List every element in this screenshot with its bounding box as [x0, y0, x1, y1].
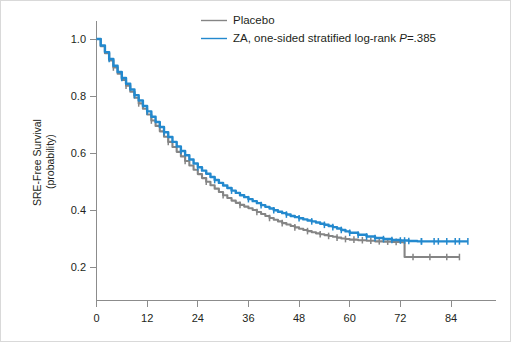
legend: Placebo ZA, one-sided stratified log-ran… — [201, 14, 436, 44]
y-tick-label: 0.2 — [71, 261, 86, 273]
censor-marks — [109, 56, 468, 245]
x-tick-label: 84 — [445, 312, 457, 324]
y-axis-tick-labels: 0.20.40.60.81.0 — [71, 33, 86, 273]
series-placebo — [97, 39, 460, 260]
legend-label-za-post: =.385 — [407, 32, 436, 44]
legend-label-placebo: Placebo — [233, 14, 275, 26]
y-axis-title-line1: SRE-Free Survival — [31, 119, 43, 206]
y-tick-label: 0.4 — [71, 204, 86, 216]
y-tick-label: 0.8 — [71, 90, 86, 102]
y-axis-title: SRE-Free Survival (probability) — [31, 119, 56, 206]
x-axis-ticks — [97, 301, 452, 308]
survival-curve — [97, 39, 468, 241]
series-layer — [97, 39, 468, 260]
legend-label-za-pre: ZA, one-sided stratified log-rank — [233, 32, 399, 44]
x-tick-label: 24 — [192, 312, 204, 324]
y-tick-label: 0.6 — [71, 147, 86, 159]
y-tick-label: 1.0 — [71, 33, 86, 45]
survival-chart: 0.20.40.60.81.0 012243648607284 SRE-Free… — [1, 1, 511, 342]
y-axis-title-line2: (probability) — [44, 134, 56, 189]
censor-marks — [113, 64, 459, 260]
x-axis-tick-labels: 012243648607284 — [93, 312, 457, 324]
survival-curve — [97, 39, 460, 257]
x-tick-label: 36 — [242, 312, 254, 324]
x-tick-label: 72 — [394, 312, 406, 324]
series-za — [97, 39, 468, 245]
y-axis-ticks — [90, 39, 97, 267]
legend-label-za: ZA, one-sided stratified log-rank P=.385 — [233, 32, 436, 44]
axes-group — [97, 21, 497, 301]
x-tick-label: 48 — [293, 312, 305, 324]
x-tick-label: 60 — [344, 312, 356, 324]
x-tick-label: 12 — [141, 312, 153, 324]
figure-container: 0.20.40.60.81.0 012243648607284 SRE-Free… — [0, 0, 511, 342]
x-tick-label: 0 — [93, 312, 99, 324]
